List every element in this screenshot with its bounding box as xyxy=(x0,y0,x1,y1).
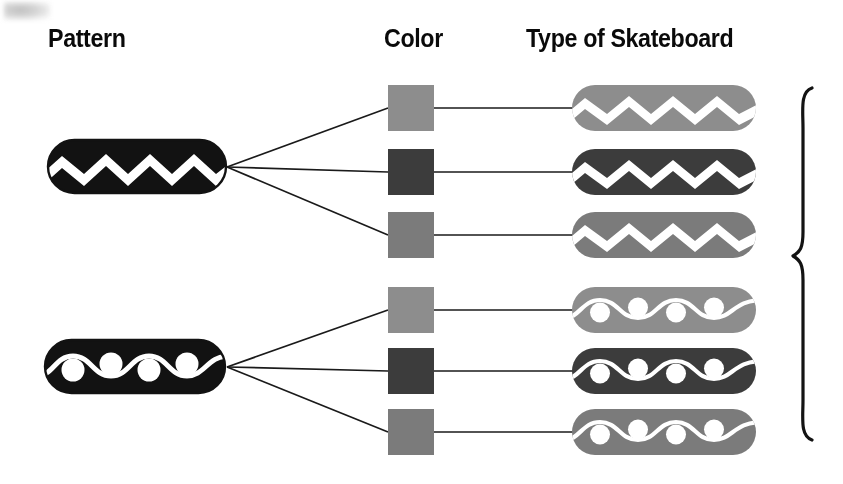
outcomes-brace xyxy=(793,88,812,440)
connector-wave-to-light-gray xyxy=(227,310,388,367)
connector-zigzag-to-medium-gray xyxy=(227,167,388,235)
color-swatch-medium-gray-top[interactable] xyxy=(388,212,434,258)
tree-diagram-canvas: Pattern Color Type of Skateboard xyxy=(0,0,843,484)
color-swatch-dark-gray-top[interactable] xyxy=(388,149,434,195)
pattern-tile-wave xyxy=(37,340,229,393)
connector-group-colors-to-boards xyxy=(434,108,578,432)
outcome-board-zigzag-light-gray xyxy=(566,85,764,131)
color-swatch-dark-gray-bottom[interactable] xyxy=(388,348,434,394)
connector-group-wave-to-colors xyxy=(227,310,388,432)
outcome-board-wave-medium-gray xyxy=(564,409,762,455)
color-swatch-light-gray-bottom[interactable] xyxy=(388,287,434,333)
connector-wave-to-medium-gray xyxy=(227,367,388,432)
outcome-board-wave-dark-gray xyxy=(564,348,762,394)
connector-group-zigzag-to-colors xyxy=(227,108,388,235)
connector-zigzag-to-light-gray xyxy=(227,108,388,167)
color-swatch-medium-gray-bottom[interactable] xyxy=(388,409,434,455)
connector-wave-to-dark-gray xyxy=(227,367,388,371)
color-swatch-light-gray-top[interactable] xyxy=(388,85,434,131)
connector-zigzag-to-dark-gray xyxy=(227,167,388,172)
outcome-board-zigzag-medium-gray xyxy=(566,212,764,258)
pattern-tile-zigzag xyxy=(42,140,234,193)
outcome-board-zigzag-dark-gray xyxy=(566,149,764,195)
outcome-board-wave-light-gray xyxy=(564,287,762,333)
